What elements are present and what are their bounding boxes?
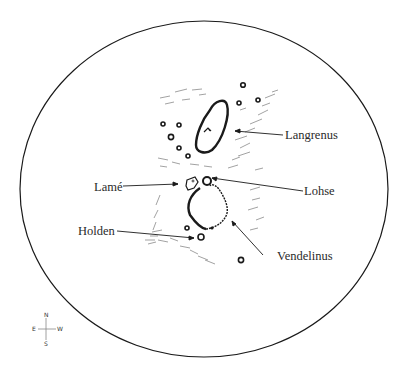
lame-central-peak: [192, 180, 194, 182]
compass-east: E: [32, 326, 36, 332]
langrenus-crater: [196, 101, 228, 153]
lame-crater: [186, 177, 198, 190]
vendelinus-crater: [188, 185, 227, 230]
lohse-crater: [203, 177, 211, 185]
label-holden: Holden: [78, 225, 115, 238]
compass-rose: [38, 318, 56, 340]
label-lohse: Lohse: [304, 185, 335, 198]
lunar-sketch: [0, 0, 405, 371]
compass-west: W: [57, 326, 63, 332]
label-vendelinus: Vendelinus: [277, 250, 333, 263]
compass-south: S: [44, 341, 48, 347]
label-langrenus: Langrenus: [285, 129, 338, 142]
terrain-shading: [145, 89, 278, 264]
leader-lines: [117, 129, 303, 255]
label-lame: Lamé: [94, 181, 122, 194]
compass-north: N: [44, 312, 49, 318]
